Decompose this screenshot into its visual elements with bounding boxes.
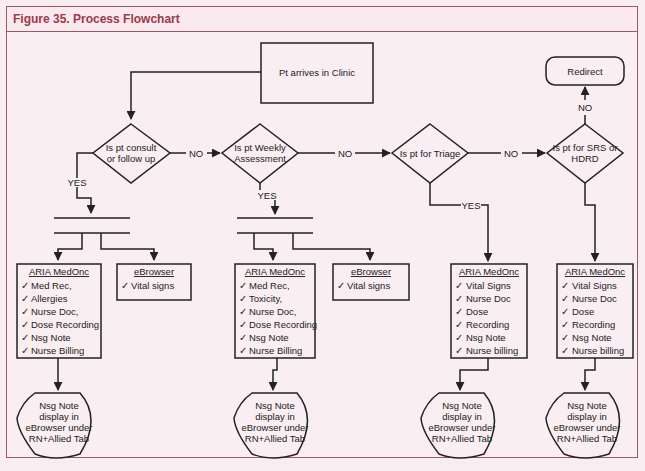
- output-2-text: display in: [255, 411, 295, 422]
- svg-text:✓: ✓: [239, 293, 247, 304]
- svg-text:✓: ✓: [21, 319, 29, 330]
- edge-yes-2: YES: [257, 190, 276, 201]
- edge-no-1: NO: [189, 148, 203, 159]
- output-4-text: RN+Allied Tab: [557, 433, 617, 444]
- redirect-label: Redirect: [567, 66, 603, 77]
- aria-1-item: Dose Recording: [31, 319, 99, 330]
- output-1-text: RN+Allied Tab: [29, 433, 89, 444]
- aria-3-item: Recording: [466, 319, 509, 330]
- aria-4-item: Nsg Note: [572, 332, 612, 343]
- aria-1-item: Nsg Note: [31, 332, 71, 343]
- svg-text:✓: ✓: [21, 280, 29, 291]
- output-3-text: display in: [442, 411, 482, 422]
- aria-title-1: ARIA MedOnc: [29, 266, 89, 277]
- decision-3-line1: Is pt for Triage: [400, 148, 461, 159]
- edge-yes-1: YES: [67, 177, 86, 188]
- arrow-start-to-consult: [131, 72, 261, 119]
- aria-1-item: Med Rec,: [31, 280, 72, 291]
- aria-3-item: Vital Signs: [466, 280, 511, 291]
- decision-4-line1: Is pt for SRS or: [553, 142, 618, 153]
- output-3-text: Nsg Note: [442, 400, 482, 411]
- output-4-text: eBrowser under: [553, 422, 620, 433]
- aria-2-item: Nurse Billing: [249, 345, 302, 356]
- svg-text:✓: ✓: [21, 332, 29, 343]
- svg-text:✓: ✓: [21, 306, 29, 317]
- aria-4-item: Dose: [572, 306, 594, 317]
- svg-text:✓: ✓: [239, 332, 247, 343]
- output-1-text: display in: [39, 411, 79, 422]
- edge-no-3: NO: [504, 148, 518, 159]
- aria-4-item: Nurse billing: [572, 345, 624, 356]
- svg-text:✓: ✓: [455, 319, 463, 330]
- edge-no-4: NO: [578, 102, 592, 113]
- svg-text:✓: ✓: [239, 319, 247, 330]
- svg-text:✓: ✓: [239, 280, 247, 291]
- svg-text:✓: ✓: [561, 332, 569, 343]
- aria-1-item: Nurse Billing: [31, 345, 84, 356]
- aria-4-item: Recording: [572, 319, 615, 330]
- svg-text:✓: ✓: [561, 306, 569, 317]
- svg-text:✓: ✓: [337, 280, 345, 291]
- svg-text:✓: ✓: [561, 280, 569, 291]
- svg-text:✓: ✓: [455, 293, 463, 304]
- decision-4-line2: HDRD: [571, 153, 599, 164]
- aria-3-item: Nurse billing: [466, 345, 518, 356]
- aria-1-item: Allergies: [31, 293, 68, 304]
- output-1-text: eBrowser under: [25, 422, 92, 433]
- aria-2-item: Dose Recording: [249, 319, 317, 330]
- aria-1-item: Nurse Doc,: [31, 306, 79, 317]
- aria-2-item: Med Rec,: [249, 280, 290, 291]
- aria-2-item: Nurse Doc,: [249, 306, 297, 317]
- svg-text:✓: ✓: [455, 345, 463, 356]
- output-2-text: eBrowser under: [241, 422, 308, 433]
- svg-text:✓: ✓: [21, 293, 29, 304]
- svg-text:✓: ✓: [561, 345, 569, 356]
- output-3-text: eBrowser under: [428, 422, 495, 433]
- svg-text:✓: ✓: [455, 280, 463, 291]
- output-3-text: RN+Allied Tab: [432, 433, 492, 444]
- svg-text:✓: ✓: [561, 319, 569, 330]
- aria-title-2: ARIA MedOnc: [245, 266, 305, 277]
- decision-1-line2: or follow up: [107, 153, 156, 164]
- ebrowser-2-item: Vital signs: [347, 280, 390, 291]
- output-2-text: Nsg Note: [255, 400, 295, 411]
- svg-text:✓: ✓: [121, 280, 129, 291]
- edge-yes-3: YES: [461, 200, 480, 211]
- decision-2-line1: Is pt Weekly: [234, 142, 286, 153]
- flowchart: Pt arrives in Clinic Redirect Is pt cons…: [0, 0, 645, 471]
- svg-text:✓: ✓: [455, 332, 463, 343]
- start-label: Pt arrives in Clinic: [279, 67, 355, 78]
- svg-text:✓: ✓: [21, 345, 29, 356]
- aria-title-3: ARIA MedOnc: [459, 266, 519, 277]
- aria-4-item: Vital Signs: [572, 280, 617, 291]
- svg-text:✓: ✓: [239, 306, 247, 317]
- ebrowser-1-item: Vital signs: [131, 280, 174, 291]
- aria-3-item: Nsg Note: [466, 332, 506, 343]
- decision-2-line2: Assessment: [234, 153, 286, 164]
- svg-text:✓: ✓: [239, 345, 247, 356]
- ebrowser-title-1: eBrowser: [134, 266, 174, 277]
- aria-2-item: Toxicity,: [249, 293, 282, 304]
- output-2-text: RN+Allied Tab: [245, 433, 305, 444]
- decision-1-line1: Is pt consult: [106, 142, 157, 153]
- output-4-text: display in: [567, 411, 607, 422]
- ebrowser-title-2: eBrowser: [351, 266, 391, 277]
- aria-2-item: Nsg Note: [249, 332, 289, 343]
- edge-no-2: NO: [338, 148, 352, 159]
- aria-3-item: Dose: [466, 306, 488, 317]
- aria-title-4: ARIA MedOnc: [565, 266, 625, 277]
- output-4-text: Nsg Note: [567, 400, 607, 411]
- output-1-text: Nsg Note: [39, 400, 79, 411]
- aria-3-item: Nurse Doc: [466, 293, 511, 304]
- svg-text:✓: ✓: [561, 293, 569, 304]
- aria-4-item: Nurse Doc: [572, 293, 617, 304]
- svg-text:✓: ✓: [455, 306, 463, 317]
